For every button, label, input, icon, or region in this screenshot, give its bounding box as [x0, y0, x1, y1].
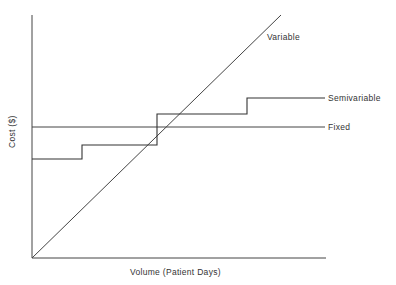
- variable-label: Variable: [267, 32, 300, 42]
- y-axis-label: Cost ($): [7, 115, 17, 148]
- x-axis-label: Volume (Patient Days): [130, 267, 221, 277]
- semivariable-line: [32, 98, 325, 159]
- cost-behavior-chart: [0, 0, 396, 285]
- semivariable-label: Semivariable: [328, 93, 381, 103]
- fixed-label: Fixed: [328, 122, 350, 132]
